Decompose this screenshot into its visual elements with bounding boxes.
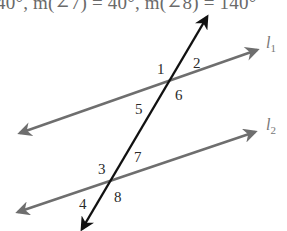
angle-label-8: 8 [114,189,122,205]
angle-label-2: 2 [193,55,201,71]
angle-label-4: 4 [79,196,87,212]
line-l2 [18,132,255,212]
angle-label-6: 6 [175,87,183,103]
transversal-line [82,17,207,229]
line-l1 [20,50,257,133]
parallel-lines-transversal-diagram: l1 l2 1 2 3 4 5 6 7 8 [0,0,287,231]
line-label-l1: l1 [266,34,276,54]
angle-label-1: 1 [157,61,165,77]
angle-label-3: 3 [98,161,106,177]
angle-label-7: 7 [134,149,142,165]
angle-label-5: 5 [135,101,143,117]
line-label-l2: l2 [266,116,276,136]
